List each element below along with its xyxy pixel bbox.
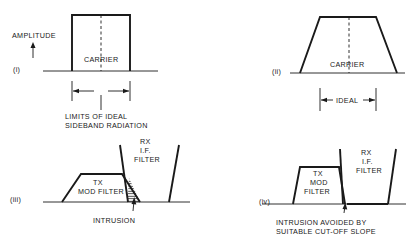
- panel-label-ii: (ii): [272, 67, 281, 76]
- panel-label-iii: (iii): [10, 195, 21, 204]
- rx-filter-label-iii-line1: RX: [140, 137, 151, 146]
- panel-label-i: (i): [13, 65, 20, 74]
- filter-response-diagram: AMPLITUDE (i) CARRIER LIMITS OF IDEAL SI…: [0, 0, 413, 245]
- carrier-label-i: CARRIER: [84, 55, 118, 64]
- panel-iv: (iv) TX MOD FILTER RX I.F. FILTER INTRUS…: [259, 148, 406, 236]
- dimension-label-ii: IDEAL: [336, 96, 358, 105]
- tx-filter-label-iii-line2: MOD FILTER: [78, 187, 124, 196]
- amplitude-arrow-icon: [31, 42, 36, 58]
- cutoff-annotation-line1: INTRUSION AVOIDED BY: [276, 218, 367, 227]
- rx-filter-label-iv-line2: I.F.: [362, 157, 373, 166]
- carrier-label-ii: CARRIER: [330, 60, 364, 69]
- dimension-arrows-i: [72, 81, 130, 110]
- rx-filter-label-iv-line3: FILTER: [356, 166, 382, 175]
- rx-filter-upper-skirt-iv: [388, 149, 396, 204]
- amplitude-axis-label: AMPLITUDE: [12, 31, 56, 40]
- panel-iii: (iii) TX MOD FILTER RX I.F. FILTER INTRU…: [10, 137, 190, 225]
- rx-filter-label-iv-line1: RX: [361, 148, 372, 157]
- panel-label-iv: (iv): [259, 197, 270, 206]
- panel-i: AMPLITUDE (i) CARRIER LIMITS OF IDEAL SI…: [12, 15, 158, 130]
- tx-filter-label-iv-line2: MOD: [310, 178, 328, 187]
- dimension-label-i-line1: LIMITS OF IDEAL: [65, 112, 127, 121]
- tx-filter-label-iv-line3: FILTER: [304, 187, 330, 196]
- cutoff-annotation-line2: SUITABLE CUT-OFF SLOPE: [276, 227, 376, 236]
- rx-filter-label-iii-line2: I.F.: [140, 146, 151, 155]
- dimension-label-i-line2: SIDEBAND RADIATION: [65, 121, 148, 130]
- rx-filter-upper-skirt-iii: [169, 145, 179, 202]
- tx-filter-label-iv-line1: TX: [313, 169, 323, 178]
- panel-ii: (ii) CARRIER IDEAL: [272, 17, 405, 111]
- tx-filter-label-iii-line1: TX: [93, 178, 103, 187]
- intrusion-label: INTRUSION: [93, 216, 135, 225]
- rx-filter-label-iii-line3: FILTER: [134, 155, 160, 164]
